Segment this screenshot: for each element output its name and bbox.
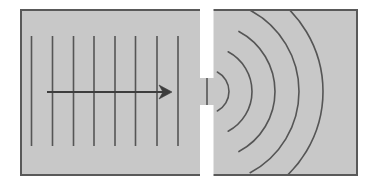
barrier-lower-segment xyxy=(200,105,214,176)
diffraction-figure xyxy=(0,0,378,187)
barrier-upper-segment xyxy=(200,9,214,78)
diagram-svg xyxy=(0,0,378,187)
